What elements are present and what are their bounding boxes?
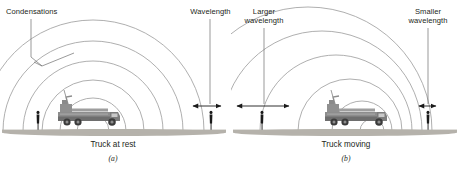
doppler-effect-figure: Condensations Wavelength Larger waveleng…: [0, 0, 459, 170]
label-condensations: Condensations: [6, 8, 57, 17]
caption-panel-b: Truck moving: [281, 140, 411, 149]
observer-right-panel-b: [427, 111, 430, 130]
panel-letter-b: (b): [281, 154, 411, 163]
label-wavelength: Wavelength: [181, 8, 240, 17]
label-smaller-wavelength-line2: wavelength: [399, 17, 457, 26]
ground-band-panel-b: [233, 130, 457, 133]
label-larger-wavelength-line2: wavelength: [235, 17, 293, 26]
panel-letter-a: (a): [48, 154, 178, 163]
observer-left-panel-b: [261, 111, 264, 130]
caption-panel-a: Truck at rest: [48, 140, 178, 149]
fire-truck-panel-b: [325, 90, 387, 126]
